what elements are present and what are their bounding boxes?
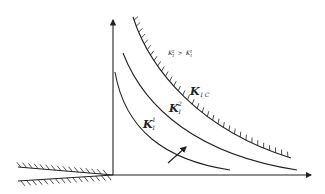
hatch-mark (202, 107, 204, 112)
hatch-mark (38, 180, 42, 185)
hatch-mark (235, 129, 236, 134)
hatch-mark (96, 176, 100, 181)
hatch-mark (78, 177, 82, 182)
k1-1-label: KI1 (142, 116, 156, 131)
hatch-mark (170, 76, 172, 81)
hatch-mark (73, 177, 77, 182)
increase-arrow (168, 147, 186, 163)
hatch-mark (90, 176, 94, 181)
crack-tip-diagram: KI2>KI1 KI C KI2 KI1 (0, 0, 325, 194)
hatch-mark (178, 86, 180, 91)
hatch-mark (32, 180, 36, 185)
hatch-mark (139, 28, 143, 32)
hatch-mark (17, 162, 21, 167)
hatch-mark (44, 179, 48, 184)
hatch-mark (154, 56, 157, 60)
crack-upper-face (17, 162, 113, 175)
hatch-mark (174, 81, 176, 86)
contour-k1-2 (123, 53, 297, 170)
hatch-mark (158, 61, 161, 66)
hatch-mark (240, 132, 241, 137)
hatch-mark (61, 178, 65, 183)
crack-lower-face (18, 175, 113, 186)
critical-boundary-kic (133, 17, 291, 158)
hatch-mark (183, 90, 185, 95)
hatch-mark (147, 45, 150, 49)
hatch-mark (101, 176, 105, 181)
hatch-mark (229, 125, 230, 130)
hatch-mark (197, 103, 199, 108)
hatch-mark (55, 179, 59, 184)
relation-label: KI2>KI1 (167, 49, 192, 58)
hatch-mark (151, 51, 154, 55)
k1-2-label: KI2 (168, 100, 182, 115)
hatch-mark (21, 181, 25, 186)
hatch-mark (144, 40, 148, 44)
hatch-mark (134, 17, 138, 21)
hatch-mark (218, 119, 219, 124)
hatch-mark (67, 178, 71, 183)
kic-label: KI C (189, 85, 210, 98)
hatch-mark (207, 111, 208, 116)
hatch-mark (192, 99, 194, 104)
hatch-mark (107, 175, 111, 180)
hatch-mark (50, 179, 54, 184)
hatch-mark (84, 177, 88, 182)
hatch-mark (165, 72, 168, 77)
hatch-mark (223, 122, 224, 127)
hatch-mark (141, 34, 145, 38)
hatch-mark (161, 67, 164, 72)
hatch-mark (27, 180, 31, 185)
hatch-mark (213, 115, 214, 120)
hatch-mark (136, 22, 140, 26)
